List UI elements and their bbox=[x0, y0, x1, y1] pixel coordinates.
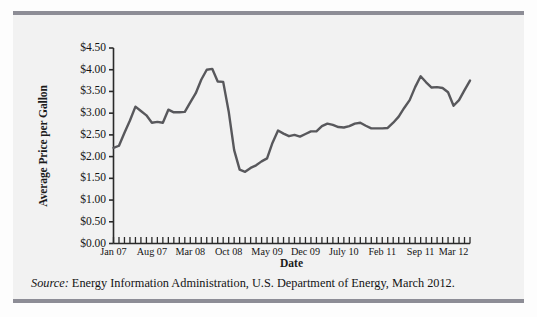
x-tick-label: Sep 11 bbox=[407, 246, 435, 257]
x-tick-label: Feb 11 bbox=[368, 246, 396, 257]
source-caption: Source: Energy Information Administratio… bbox=[31, 276, 455, 291]
price-series-line bbox=[114, 69, 471, 172]
source-label: Source: bbox=[31, 276, 69, 290]
line-chart-plot bbox=[0, 0, 537, 317]
x-tick-label: May 09 bbox=[251, 246, 282, 257]
x-tick-label: Dec 09 bbox=[291, 246, 320, 257]
x-tick-marks bbox=[114, 237, 471, 244]
figure-container: Average Price per Gallon $0.00$0.50$1.00… bbox=[0, 0, 537, 317]
x-tick-label: Mar 12 bbox=[439, 246, 469, 257]
x-tick-label: Mar 08 bbox=[175, 246, 205, 257]
source-body: Energy Information Administration, U.S. … bbox=[69, 276, 455, 290]
x-tick-label: July 10 bbox=[329, 246, 359, 257]
x-tick-label: Jan 07 bbox=[100, 246, 126, 257]
x-tick-label: Aug 07 bbox=[137, 246, 167, 257]
x-tick-label: Oct 08 bbox=[215, 246, 242, 257]
x-axis-title: Date bbox=[113, 257, 470, 269]
axis-lines bbox=[114, 48, 471, 244]
